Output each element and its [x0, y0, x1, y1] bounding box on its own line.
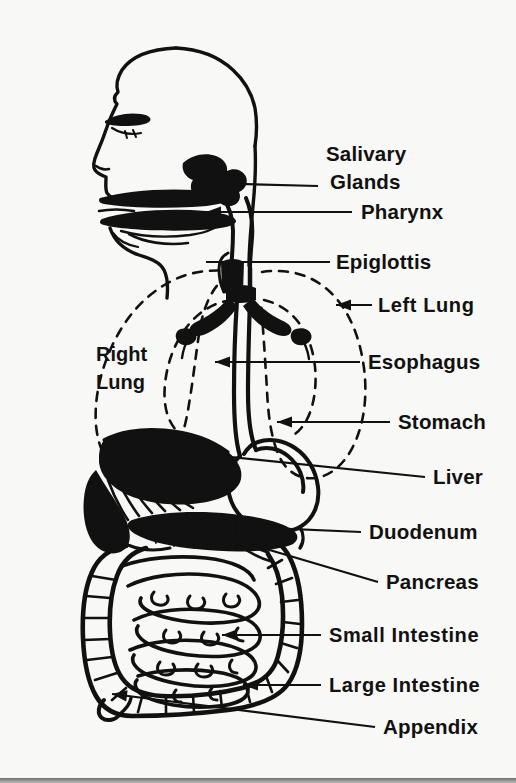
callout-labels: SalivaryGlandsPharynxEpiglottisLeft Lung… — [326, 142, 486, 738]
label-left-lung: Left Lung — [378, 294, 474, 316]
inner-label-right-lung-line2: Lung — [96, 371, 145, 393]
label-pharynx: Pharynx — [361, 200, 444, 223]
label-salivary-glands-line2: Glands — [330, 170, 401, 193]
leader-line — [246, 543, 378, 582]
large-intestine — [83, 536, 302, 716]
label-small-intestine: Small Intestine — [329, 624, 479, 646]
leader-left-lung — [336, 299, 372, 310]
label-pancreas: Pancreas — [386, 570, 479, 593]
label-duodenum: Duodenum — [369, 520, 478, 543]
leader-stomach — [277, 416, 390, 427]
leader-pancreas — [246, 543, 378, 582]
label-liver: Liver — [433, 465, 483, 488]
small-intestine — [122, 557, 260, 707]
leader-small-intestine — [222, 629, 321, 640]
duodenum — [128, 512, 298, 551]
anatomy-diagram-canvas: RightLung SalivaryGlandsPharynxEpiglotti… — [0, 0, 516, 783]
nose — [96, 166, 109, 169]
arrow-head — [215, 356, 230, 367]
label-esophagus: Esophagus — [368, 350, 480, 373]
esophagus-tube — [234, 300, 256, 456]
label-stomach: Stomach — [398, 410, 486, 433]
footer-band — [0, 778, 516, 783]
label-large-intestine: Large Intestine — [329, 674, 480, 696]
leader-esophagus — [215, 356, 360, 367]
label-epiglottis: Epiglottis — [336, 250, 431, 273]
arrow-head — [222, 629, 237, 640]
label-appendix: Appendix — [383, 715, 478, 738]
inner-label-right-lung: Right — [96, 343, 147, 365]
arrow-head — [277, 416, 292, 427]
label-salivary-glands: Salivary — [326, 142, 407, 165]
